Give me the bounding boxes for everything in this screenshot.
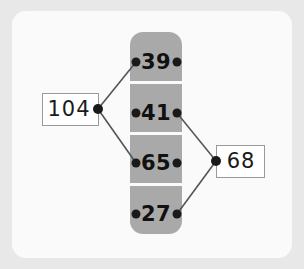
dot-41-left[interactable] [132, 109, 141, 118]
cell-label-41: 41 [141, 103, 171, 124]
dot-27-right[interactable] [173, 210, 182, 219]
dot-65-right[interactable] [173, 159, 182, 168]
dot-65-left[interactable] [132, 159, 141, 168]
dot-39-right[interactable] [173, 58, 182, 67]
cell-label-65: 65 [141, 153, 171, 174]
dot-41-right[interactable] [173, 109, 182, 118]
diagram-stage: 39 41 65 27 104 68 [0, 0, 304, 269]
cell-label-39: 39 [141, 52, 171, 73]
dot-39-left[interactable] [132, 58, 141, 67]
pointer-label-104: 104 [47, 99, 90, 120]
dot-box-68[interactable] [211, 156, 221, 166]
dot-box-104[interactable] [93, 104, 103, 114]
edge-41-to-68 [177, 113, 216, 161]
pointer-label-68: 68 [227, 151, 256, 172]
edge-27-to-68 [177, 161, 216, 214]
dot-27-left[interactable] [132, 210, 141, 219]
cell-label-27: 27 [141, 204, 171, 225]
diagram-canvas [0, 0, 304, 269]
